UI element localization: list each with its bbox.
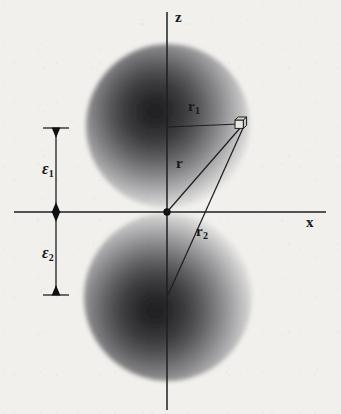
r1-label-subscript: 1 bbox=[195, 105, 200, 116]
epsilon-2-label-base: ε bbox=[42, 244, 49, 261]
r2-label-subscript: 2 bbox=[203, 230, 208, 241]
upper-sphere bbox=[86, 44, 250, 208]
epsilon-2-label: ε2 bbox=[42, 245, 54, 261]
r-label-base: r bbox=[176, 155, 183, 171]
epsilon-1-label-subscript: 1 bbox=[49, 168, 54, 179]
lower-sphere bbox=[84, 213, 252, 381]
epsilon-2-arrowhead-bottom bbox=[52, 285, 61, 296]
epsilon-2-arrowhead-top bbox=[52, 212, 61, 223]
z-axis-label: z bbox=[175, 10, 182, 25]
epsilon-1-arrowhead-top bbox=[52, 128, 61, 139]
epsilon-1-label: ε1 bbox=[42, 161, 54, 177]
epsilon-1-arrowhead-bottom bbox=[52, 202, 61, 213]
diagram-svg bbox=[0, 0, 341, 414]
r-label: r bbox=[176, 156, 183, 171]
r2-label-base: r bbox=[196, 223, 203, 239]
r2-label: r2 bbox=[196, 224, 208, 239]
physics-diagram-canvas: z x r1 r r2 ε1 ε2 bbox=[0, 0, 341, 414]
volume-element-cube-icon bbox=[235, 117, 247, 128]
r1-label-base: r bbox=[188, 98, 195, 114]
r1-label: r1 bbox=[188, 99, 200, 114]
x-axis-label: x bbox=[306, 215, 314, 230]
epsilon-2-label-subscript: 2 bbox=[49, 252, 54, 263]
epsilon-1-label-base: ε bbox=[42, 160, 49, 177]
